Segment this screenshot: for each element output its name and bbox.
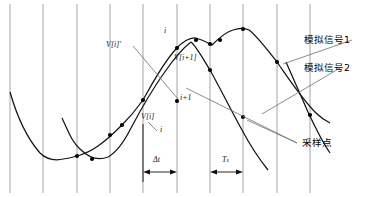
analog-signal-2-curve-lobe-b: [191, 42, 268, 170]
index-label-i-lower: i: [160, 126, 162, 134]
sample-dot: [275, 60, 279, 64]
delta-t-arrowhead-right: [170, 169, 177, 174]
sample-dot: [308, 113, 312, 117]
dimension-label-sampling-period: Ts: [222, 156, 229, 164]
legend-label-analog-signal-2: 模拟信号2: [304, 63, 350, 73]
sample-dot: [208, 42, 212, 46]
sample-dot: [141, 98, 145, 102]
sample-dot: [175, 99, 179, 103]
ts-arrowhead-left: [210, 169, 217, 174]
sample-dot: [108, 133, 112, 137]
sample-dot: [218, 38, 222, 42]
sample-dot: [75, 154, 79, 158]
ts-subscript: s: [226, 157, 228, 163]
value-label-v-i-prime: V[i]': [106, 41, 121, 49]
sample-dot: [208, 68, 212, 72]
index-label-i-top: i: [164, 27, 166, 35]
dimension-label-delta-t: Δt: [153, 156, 160, 164]
leader-lines-values-group: [133, 46, 178, 131]
legend-label-analog-signal-1: 模拟信号1: [304, 35, 350, 45]
leader-line-v-i: [148, 122, 157, 131]
analog-signal-2-curve-lobe-a: [62, 42, 191, 159]
value-label-v-i-plus-1: V[i+1]: [174, 54, 197, 62]
delta-t-arrowhead-left: [143, 169, 150, 174]
index-label-i-plus-1: i+1: [180, 94, 192, 102]
signal-sampling-figure: 模拟信号1 模拟信号2 采样点 V[i]' V[i+1] V[i] i i i+…: [0, 0, 383, 197]
leader-line-sample-point-b: [247, 120, 297, 143]
value-label-v-i: V[i]: [141, 113, 154, 121]
sample-dot: [90, 157, 94, 161]
sample-dot: [241, 27, 245, 31]
sample-dot: [175, 46, 179, 50]
sample-dot: [194, 38, 198, 42]
legend-label-sample-points: 采样点: [302, 138, 332, 148]
ts-arrowhead-right: [236, 169, 243, 174]
sample-dots-signal-2: [90, 38, 245, 161]
leader-lines-group: [186, 40, 352, 143]
sample-dot: [120, 123, 124, 127]
grid-lines-group: [10, 4, 310, 193]
leader-line-signal-2: [262, 68, 340, 114]
leader-line-sample-point-a: [186, 88, 297, 143]
analog-signal-1-curve: [10, 29, 330, 160]
sampling-period-dimension: [210, 169, 243, 174]
